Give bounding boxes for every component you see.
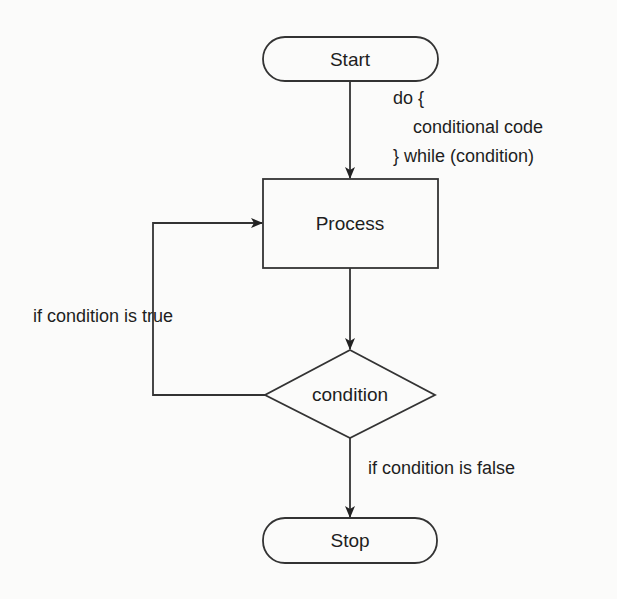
start-label: Start [330,49,371,70]
start-node: Start [263,37,438,81]
code-line-body: conditional code [413,117,543,137]
code-line-while: } while (condition) [393,146,534,166]
condition-label: condition [312,384,388,405]
process-node: Process [263,179,438,268]
stop-node: Stop [263,518,437,563]
code-line-do: do { [393,88,424,108]
stop-label: Stop [330,530,369,551]
flowchart: Start do { conditional code } while (con… [0,0,617,599]
code-annotation: do { conditional code } while (condition… [393,88,543,166]
condition-node: condition [265,350,435,438]
process-label: Process [316,213,385,234]
true-branch-label: if condition is true [33,306,173,326]
false-branch-label: if condition is false [368,458,515,478]
